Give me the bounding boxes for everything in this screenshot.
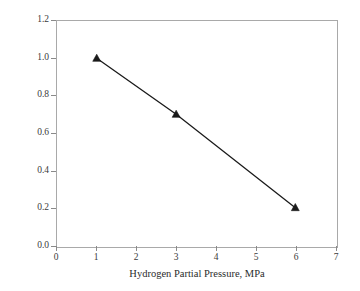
y-tick-label: 1.0 (37, 53, 49, 63)
y-tick-mark (51, 208, 56, 209)
x-tick-label: 5 (254, 253, 259, 263)
x-tick-mark (216, 246, 217, 251)
data-point-marker (291, 204, 299, 211)
x-tick-mark (296, 246, 297, 251)
plot-area (57, 21, 337, 247)
y-tick-mark (51, 171, 56, 172)
y-tick-mark (51, 133, 56, 134)
y-tick-mark (51, 58, 56, 59)
y-tick-label: 0.6 (37, 128, 49, 138)
y-tick-label: 0.2 (37, 204, 49, 214)
series-line (97, 58, 296, 207)
data-point-marker (93, 54, 101, 61)
chart-figure: 0.00.20.40.60.81.01.2 01234567 Hydrogen … (0, 0, 360, 291)
y-tick-mark (51, 20, 56, 21)
data-point-marker (172, 110, 180, 117)
x-tick-mark (256, 246, 257, 251)
x-tick-label: 1 (94, 253, 99, 263)
plot-frame (56, 20, 338, 248)
x-tick-mark (136, 246, 137, 251)
x-tick-mark (336, 246, 337, 251)
y-tick-label: 0.4 (37, 166, 49, 176)
y-tick-label: 1.2 (37, 15, 49, 25)
x-tick-label: 4 (214, 253, 219, 263)
x-tick-mark (96, 246, 97, 251)
y-tick-label: 0.8 (37, 91, 49, 101)
x-tick-mark (56, 246, 57, 251)
x-axis-title: Hydrogen Partial Pressure, MPa (56, 269, 338, 280)
x-tick-label: 0 (54, 253, 59, 263)
x-tick-label: 7 (334, 253, 339, 263)
x-tick-label: 6 (294, 253, 299, 263)
y-tick-label: 0.0 (37, 241, 49, 251)
y-tick-mark (51, 95, 56, 96)
x-tick-mark (176, 246, 177, 251)
x-tick-label: 2 (134, 253, 139, 263)
data-series-layer (57, 21, 337, 247)
x-tick-label: 3 (174, 253, 179, 263)
